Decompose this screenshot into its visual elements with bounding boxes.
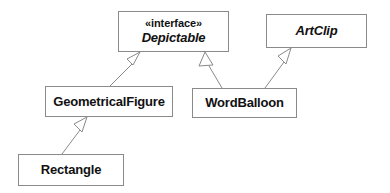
hollow-triangle-arrowhead-icon (74, 117, 87, 132)
generalization-line (209, 66, 222, 88)
hollow-triangle-arrowhead-icon (127, 52, 140, 65)
edge-wordballoon-to-depictable (199, 52, 222, 88)
uml-class-box-depictable[interactable]: «interface» Depictable (118, 11, 229, 52)
uml-class-box-artclip[interactable]: ArtClip (266, 14, 367, 48)
edge-rectangle-to-geometricalfigure (62, 117, 87, 154)
class-name-label: GeometricalFigure (53, 95, 164, 109)
edge-wordballoon-to-artclip (265, 48, 291, 88)
generalization-line (62, 130, 80, 154)
class-name-label: Rectangle (41, 163, 101, 177)
class-name-label: Depictable (142, 31, 206, 45)
class-name-label: WordBalloon (205, 96, 283, 110)
class-stereotype: «interface» (145, 18, 202, 30)
hollow-triangle-arrowhead-icon (199, 52, 213, 66)
class-name-label: ArtClip (296, 24, 338, 38)
generalization-line (265, 62, 284, 88)
uml-class-diagram-canvas: «interface» Depictable ArtClip Geometric… (0, 0, 390, 193)
generalization-line (110, 63, 133, 86)
hollow-triangle-arrowhead-icon (278, 48, 291, 64)
uml-class-box-wordballoon[interactable]: WordBalloon (192, 88, 297, 118)
uml-class-box-rectangle[interactable]: Rectangle (18, 154, 124, 186)
uml-class-box-geometricalfigure[interactable]: GeometricalFigure (45, 86, 173, 117)
edge-geometricalfigure-to-depictable (110, 52, 140, 86)
